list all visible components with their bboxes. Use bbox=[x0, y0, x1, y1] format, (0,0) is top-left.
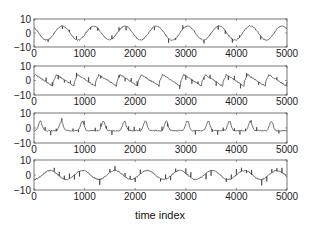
x-tick-label: 1000 bbox=[73, 48, 96, 59]
y-tick-label: 10 bbox=[20, 155, 32, 166]
x-tick-label: 3000 bbox=[175, 144, 198, 155]
y-tick-label: −10 bbox=[14, 90, 31, 101]
series-line-1 bbox=[34, 25, 287, 43]
x-tick-label: 0 bbox=[31, 191, 37, 202]
axes-frame-4 bbox=[34, 160, 287, 190]
x-tick-label: 4000 bbox=[225, 144, 248, 155]
series-line-4 bbox=[34, 166, 287, 185]
x-tick-label: 1000 bbox=[73, 191, 96, 202]
y-tick-label: −10 bbox=[14, 42, 31, 53]
subplot-3: 010002000300040005000−10010 bbox=[14, 108, 299, 156]
subplot-1: 010002000300040005000−10010 bbox=[14, 14, 299, 60]
y-tick-label: 0 bbox=[25, 75, 31, 86]
x-tick-label: 0 bbox=[31, 96, 37, 107]
x-tick-label: 5000 bbox=[276, 191, 299, 202]
x-tick-label: 2000 bbox=[124, 144, 147, 155]
x-tick-label: 0 bbox=[31, 48, 37, 59]
y-tick-label: −10 bbox=[14, 138, 31, 149]
axes-frame-2 bbox=[34, 66, 287, 95]
figure-canvas: 010002000300040005000−100100100020003000… bbox=[0, 0, 316, 227]
y-tick-label: 10 bbox=[20, 108, 32, 119]
y-tick-label: 0 bbox=[25, 123, 31, 134]
y-tick-label: 10 bbox=[20, 61, 32, 72]
x-tick-label: 2000 bbox=[124, 48, 147, 59]
y-tick-label: 0 bbox=[25, 28, 31, 39]
x-tick-label: 0 bbox=[31, 144, 37, 155]
axes-frame-3 bbox=[34, 113, 287, 143]
x-tick-label: 2000 bbox=[124, 96, 147, 107]
x-tick-label: 3000 bbox=[175, 48, 198, 59]
axes-frame-1 bbox=[34, 19, 287, 47]
series-line-3 bbox=[34, 118, 287, 135]
x-tick-label: 5000 bbox=[276, 144, 299, 155]
subplot-2: 010002000300040005000−10010 bbox=[14, 61, 299, 108]
x-tick-label: 4000 bbox=[225, 191, 248, 202]
y-tick-label: 10 bbox=[20, 14, 32, 25]
x-tick-label: 1000 bbox=[73, 96, 96, 107]
x-tick-label: 3000 bbox=[175, 96, 198, 107]
subplot-4: 010002000300040005000−10010 bbox=[14, 155, 299, 203]
y-tick-label: 0 bbox=[25, 170, 31, 181]
series-line-2 bbox=[34, 73, 287, 89]
x-tick-label: 4000 bbox=[225, 96, 248, 107]
x-tick-label: 3000 bbox=[175, 191, 198, 202]
y-tick-label: −10 bbox=[14, 185, 31, 196]
x-tick-label: 2000 bbox=[124, 191, 147, 202]
x-tick-label: 5000 bbox=[276, 96, 299, 107]
x-tick-label: 1000 bbox=[73, 144, 96, 155]
x-tick-label: 5000 bbox=[276, 48, 299, 59]
x-tick-label: 4000 bbox=[225, 48, 248, 59]
x-axis-label: time index bbox=[135, 209, 186, 221]
